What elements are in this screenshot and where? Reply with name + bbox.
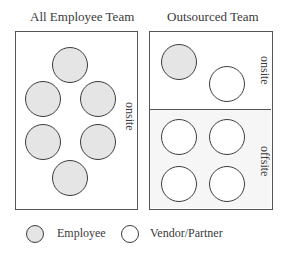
employee-circle: [25, 124, 61, 160]
vendor-circle: [161, 119, 197, 155]
outsourced-team-box: onsite offsite: [149, 31, 273, 210]
outsourced-onsite-section: onsite: [150, 32, 271, 110]
legend-vendor-label: Vendor/Partner: [150, 226, 223, 241]
left-panel-title: All Employee Team: [30, 9, 134, 25]
vendor-circle: [209, 119, 245, 155]
vendor-circle: [209, 166, 245, 202]
vendor-circle: [161, 166, 197, 202]
left-onsite-label: onsite: [122, 102, 137, 131]
employee-circle: [80, 124, 116, 160]
employee-circle: [80, 81, 116, 117]
right-panel-title: Outsourced Team: [167, 9, 259, 25]
vendor-circle: [209, 66, 245, 102]
all-employee-team-box: onsite: [15, 31, 138, 210]
employee-circle: [52, 47, 88, 83]
offsite-label: offsite: [257, 146, 272, 176]
employee-circle: [161, 44, 197, 80]
legend-employee-label: Employee: [57, 226, 106, 241]
employee-circle: [25, 81, 61, 117]
legend-vendor-swatch: [121, 225, 139, 243]
employee-circle: [52, 160, 88, 196]
right-onsite-label: onsite: [257, 56, 272, 85]
legend-employee-swatch: [26, 225, 44, 243]
outsourced-offsite-section: offsite: [150, 110, 271, 208]
